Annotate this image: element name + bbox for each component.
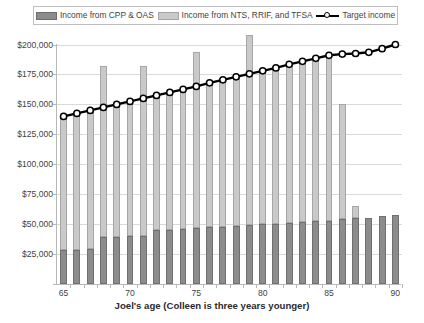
x-axis-tick-label: 75 bbox=[182, 289, 210, 298]
x-axis-tick bbox=[216, 284, 217, 288]
target-income-marker bbox=[87, 107, 93, 113]
legend-swatch-dark-gray-icon bbox=[36, 12, 57, 20]
target-income-marker bbox=[167, 89, 173, 95]
target-income-marker bbox=[207, 80, 213, 86]
target-income-marker bbox=[379, 46, 385, 52]
x-axis-tick bbox=[336, 284, 337, 288]
legend-line-marker-icon bbox=[316, 12, 339, 20]
x-axis-tick bbox=[163, 284, 164, 288]
legend-label-target-income: Target income bbox=[342, 11, 395, 19]
target-income-marker bbox=[353, 50, 359, 56]
target-income-marker bbox=[180, 86, 186, 92]
x-axis-title: Joel's age (Colleen is three years young… bbox=[0, 301, 424, 311]
target-income-marker bbox=[220, 77, 226, 83]
x-axis-tick bbox=[389, 284, 390, 288]
target-income-marker bbox=[366, 49, 372, 55]
legend-swatch-light-gray-icon bbox=[158, 12, 179, 20]
y-axis-tick-label: $150,000 bbox=[3, 100, 53, 109]
x-axis-tick bbox=[110, 284, 111, 288]
x-axis-tick bbox=[150, 284, 151, 288]
target-income-marker bbox=[153, 92, 159, 98]
target-income-marker bbox=[326, 52, 332, 58]
x-axis-tick bbox=[269, 284, 270, 288]
x-axis-tick bbox=[322, 284, 323, 288]
chart-legend: Income from CPP & OAS Income from NTS, R… bbox=[33, 6, 398, 25]
target-income-marker bbox=[286, 61, 292, 67]
target-income-marker bbox=[273, 65, 279, 71]
legend-item-cpp-oas: Income from CPP & OAS bbox=[36, 11, 154, 19]
x-axis-tick bbox=[283, 284, 284, 288]
target-income-marker bbox=[299, 58, 305, 64]
x-axis-tick bbox=[176, 284, 177, 288]
x-axis-tick bbox=[123, 284, 124, 288]
legend-item-target-income: Target income bbox=[316, 11, 395, 19]
x-axis-tick bbox=[375, 284, 376, 288]
x-axis-tick bbox=[256, 284, 257, 288]
legend-item-nts-rrif-tfsa: Income from NTS, RRIF, and TFSA bbox=[158, 11, 313, 19]
x-axis-tick bbox=[137, 284, 138, 288]
target-income-line bbox=[57, 44, 402, 285]
y-axis-tick-label: $100,000 bbox=[3, 160, 53, 169]
x-axis-tick bbox=[203, 284, 204, 288]
legend-label-cpp-oas: Income from CPP & OAS bbox=[60, 11, 154, 19]
plot-area: $25,000$50,000$75,000$100,000$125,000$15… bbox=[56, 44, 401, 285]
x-axis-tick-label: 85 bbox=[315, 289, 343, 298]
target-income-marker bbox=[260, 68, 266, 74]
target-income-marker bbox=[246, 71, 252, 77]
y-axis-tick-label: $125,000 bbox=[3, 130, 53, 139]
target-income-marker bbox=[313, 55, 319, 61]
chart-container: Income from CPP & OAS Income from NTS, R… bbox=[0, 0, 424, 323]
x-axis-tick bbox=[349, 284, 350, 288]
x-axis-tick bbox=[190, 284, 191, 288]
y-axis-tick-label: $200,000 bbox=[3, 41, 53, 50]
legend-label-nts-rrif-tfsa: Income from NTS, RRIF, and TFSA bbox=[182, 11, 313, 19]
x-axis-tick-label: 80 bbox=[249, 289, 277, 298]
x-axis-tick bbox=[230, 284, 231, 288]
y-axis-tick-label: $50,000 bbox=[3, 220, 53, 229]
x-axis-tick bbox=[70, 284, 71, 288]
target-income-marker bbox=[392, 41, 398, 47]
target-income-marker bbox=[233, 74, 239, 80]
x-axis-tick bbox=[362, 284, 363, 288]
target-income-marker bbox=[127, 98, 133, 104]
target-income-marker bbox=[74, 110, 80, 116]
target-income-marker bbox=[339, 51, 345, 57]
x-axis-tick bbox=[309, 284, 310, 288]
x-axis-tick bbox=[402, 284, 403, 288]
x-axis-tick bbox=[296, 284, 297, 288]
target-income-marker bbox=[193, 83, 199, 89]
x-axis-tick-label: 90 bbox=[381, 289, 409, 298]
y-axis-tick-label: $175,000 bbox=[3, 70, 53, 79]
x-axis-tick bbox=[97, 284, 98, 288]
y-axis-tick-label: $25,000 bbox=[3, 250, 53, 259]
x-axis-tick-label: 70 bbox=[116, 289, 144, 298]
y-axis-tick-label: $75,000 bbox=[3, 190, 53, 199]
target-income-marker bbox=[140, 95, 146, 101]
x-axis-tick bbox=[84, 284, 85, 288]
x-axis-tick-label: 65 bbox=[50, 289, 78, 298]
target-income-marker bbox=[100, 104, 106, 110]
target-income-marker bbox=[114, 101, 120, 107]
x-axis-tick bbox=[243, 284, 244, 288]
target-income-marker bbox=[61, 113, 67, 119]
